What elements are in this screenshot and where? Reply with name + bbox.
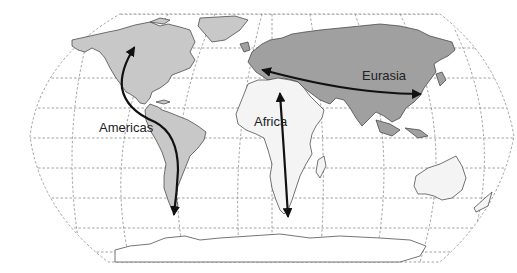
americas-landmass [72,16,248,212]
map-graphic [0,0,517,273]
australia-landmass [414,156,492,212]
eurasia-label: Eurasia [362,68,406,83]
antarctica-landmass [115,234,426,262]
americas-label: Americas [99,120,153,135]
world-map: Americas Africa Eurasia [0,0,517,273]
africa-label: Africa [254,114,287,129]
